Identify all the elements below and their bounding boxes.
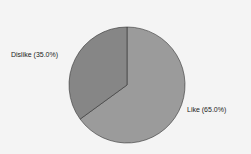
label-dislike: Dislike (35.0%) — [11, 51, 58, 58]
label-like: Like (65.0%) — [187, 106, 226, 113]
pie-chart — [0, 0, 251, 154]
